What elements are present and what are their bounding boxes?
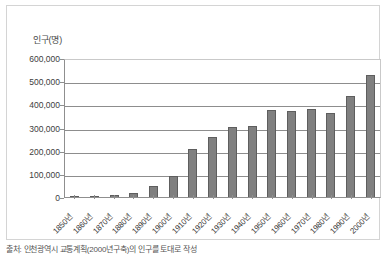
bar-slot (183, 60, 203, 197)
x-axis-tick-mark (331, 195, 332, 199)
x-axis-tick-label: 1910년 (169, 211, 194, 236)
bar (326, 113, 335, 197)
x-axis-tick-label: 1980년 (307, 211, 332, 236)
bar (228, 127, 237, 197)
x-axis-tick-label: 1890년 (129, 211, 154, 236)
x-axis-tick-mark (371, 195, 372, 199)
bar-slot (144, 60, 164, 197)
bar-slot (341, 60, 361, 197)
x-axis-tick-mark (193, 195, 194, 199)
x-axis-tick-label: 1870년 (89, 211, 114, 236)
bar-slot (242, 60, 262, 197)
bar (307, 109, 316, 197)
x-axis-tick-mark (153, 195, 154, 199)
x-axis-tick-mark (94, 195, 95, 199)
y-axis-tick-labels: 0100,000200,000300,000400,000500,000600,… (15, 59, 60, 198)
y-axis-title: 인구(명) (33, 33, 62, 46)
bar-series (65, 60, 380, 197)
y-axis-tick-label: 200,000 (29, 147, 60, 157)
chart-frame: 인구(명) 0100,000200,000300,000400,000500,0… (6, 5, 380, 240)
x-axis-tick-mark (351, 195, 352, 199)
bar (169, 176, 178, 197)
x-axis-tick-label: 1920년 (189, 211, 214, 236)
x-axis-tick-mark (272, 195, 273, 199)
bar (346, 96, 355, 197)
x-axis-tick-mark (232, 195, 233, 199)
x-axis-tick-mark (114, 195, 115, 199)
bar-slot (163, 60, 183, 197)
x-axis-tick-label: 1950년 (248, 211, 273, 236)
bar (267, 110, 276, 197)
bar-slot (301, 60, 321, 197)
bar (188, 149, 197, 197)
x-axis-tick-mark (292, 195, 293, 199)
bar-slot (223, 60, 243, 197)
x-axis-tick-mark (213, 195, 214, 199)
bar-slot (104, 60, 124, 197)
y-axis-tick-label: 400,000 (29, 100, 60, 110)
chart-source-caption: 출처: 인천광역시 교통계획(2000년구축)의 인구를 토대로 작성 (6, 243, 381, 254)
x-axis-tick-label: 1850년 (50, 211, 75, 236)
x-axis-tick-label: 1860년 (70, 211, 95, 236)
bar-slot (85, 60, 105, 197)
x-axis-tick-label: 1880년 (109, 211, 134, 236)
x-axis-tick-label: 1990년 (327, 211, 352, 236)
bar (287, 111, 296, 197)
y-axis-tick-label: 500,000 (29, 77, 60, 87)
population-bar-chart-figure: 인구(명) 0100,000200,000300,000400,000500,0… (0, 0, 387, 257)
bar (208, 137, 217, 197)
x-axis-tick-label: 1900년 (149, 211, 174, 236)
bar-slot (262, 60, 282, 197)
x-axis-tick-label: 1970년 (288, 211, 313, 236)
bar-slot (65, 60, 85, 197)
bar-slot (203, 60, 223, 197)
x-axis-tick-mark (312, 195, 313, 199)
bar-slot (321, 60, 341, 197)
x-axis-tick-label: 1960년 (268, 211, 293, 236)
bar-slot (282, 60, 302, 197)
bar-slot (360, 60, 380, 197)
bar (248, 126, 257, 197)
x-axis-tick-label: 2000년 (347, 211, 372, 236)
x-axis-tick-label: 1940년 (228, 211, 253, 236)
y-axis-tick-label: 300,000 (29, 124, 60, 134)
x-axis-tick-label: 1930년 (208, 211, 233, 236)
x-axis-tick-mark (133, 195, 134, 199)
y-axis-tick-label: 600,000 (29, 54, 60, 64)
bar (366, 75, 375, 197)
x-axis-tick-mark (74, 195, 75, 199)
x-axis-tick-mark (252, 195, 253, 199)
plot-area (64, 59, 381, 198)
y-axis-tick-label: 100,000 (29, 170, 60, 180)
x-axis-tick-mark (173, 195, 174, 199)
x-axis-tick-labels: 1850년1860년1870년1880년1890년1900년1910년1920년… (64, 199, 381, 245)
bar-slot (124, 60, 144, 197)
